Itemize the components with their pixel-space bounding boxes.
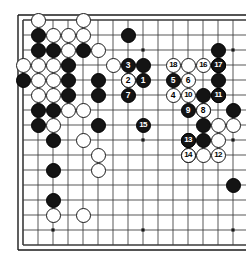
stone-black[interactable] <box>31 118 46 133</box>
move-number-label: 13 <box>184 136 191 144</box>
move-stone-3[interactable]: 3 <box>121 58 136 73</box>
stone-black[interactable] <box>196 118 211 133</box>
stone-black[interactable] <box>226 178 241 193</box>
stone-black[interactable] <box>91 118 106 133</box>
stone-white[interactable] <box>76 13 91 28</box>
move-number-label: 7 <box>126 91 130 100</box>
stone-black[interactable] <box>31 28 46 43</box>
stone-black[interactable] <box>121 28 136 43</box>
move-number-label: 2 <box>126 76 130 85</box>
star-point <box>51 228 54 231</box>
move-number-label: 11 <box>215 91 222 99</box>
stone-white[interactable] <box>46 88 61 103</box>
move-number-label: 5 <box>171 76 175 85</box>
move-number-label: 8 <box>201 106 205 115</box>
stone-white[interactable] <box>46 28 61 43</box>
move-stone-2[interactable]: 2 <box>121 73 136 88</box>
stone-white[interactable] <box>61 43 76 58</box>
stone-black[interactable] <box>211 43 226 58</box>
stone-white[interactable] <box>31 58 46 73</box>
move-number-label: 4 <box>171 91 175 100</box>
stone-black[interactable] <box>136 58 151 73</box>
stone-white[interactable] <box>196 148 211 163</box>
stone-white[interactable] <box>46 73 61 88</box>
stone-black[interactable] <box>196 133 211 148</box>
stone-black[interactable] <box>46 193 61 208</box>
move-stone-15[interactable]: 15 <box>136 118 151 133</box>
stone-white[interactable] <box>46 118 61 133</box>
stone-white[interactable] <box>76 28 91 43</box>
move-number-label: 17 <box>214 61 221 69</box>
move-stone-4[interactable]: 4 <box>166 88 181 103</box>
stone-black[interactable] <box>16 73 31 88</box>
move-number-label: 10 <box>184 91 191 99</box>
move-stone-16[interactable]: 16 <box>196 58 211 73</box>
move-stone-1[interactable]: 1 <box>136 73 151 88</box>
move-stone-11[interactable]: 11 <box>211 88 226 103</box>
stone-black[interactable] <box>46 43 61 58</box>
move-stone-13[interactable]: 13 <box>181 133 196 148</box>
star-point <box>231 228 234 231</box>
move-stone-5[interactable]: 5 <box>166 73 181 88</box>
move-number-label: 9 <box>186 106 190 115</box>
stone-white[interactable] <box>226 118 241 133</box>
stone-black[interactable] <box>61 73 76 88</box>
stone-white[interactable] <box>211 118 226 133</box>
stone-black[interactable] <box>31 103 46 118</box>
stone-white[interactable] <box>106 58 121 73</box>
go-board-diagram: 123456789101112131415161718 <box>0 0 246 265</box>
move-number-label: 18 <box>169 61 176 69</box>
move-stone-17[interactable]: 17 <box>211 58 226 73</box>
stone-black[interactable] <box>91 73 106 88</box>
stone-white[interactable] <box>31 73 46 88</box>
move-number-label: 1 <box>141 76 145 85</box>
stone-white[interactable] <box>91 43 106 58</box>
stone-white[interactable] <box>76 133 91 148</box>
stone-white[interactable] <box>16 58 31 73</box>
star-point <box>231 138 234 141</box>
move-number-label: 3 <box>126 61 130 70</box>
stone-white[interactable] <box>181 58 196 73</box>
stone-white[interactable] <box>76 208 91 223</box>
move-stone-18[interactable]: 18 <box>166 58 181 73</box>
move-number-label: 6 <box>186 76 190 85</box>
stone-white[interactable] <box>31 13 46 28</box>
stone-white[interactable] <box>46 208 61 223</box>
stone-black[interactable] <box>226 103 241 118</box>
stone-white[interactable] <box>91 163 106 178</box>
move-number-label: 14 <box>184 151 191 159</box>
move-number-label: 16 <box>199 61 206 69</box>
stone-black[interactable] <box>76 43 91 58</box>
move-number-label: 12 <box>214 151 221 159</box>
star-point <box>141 138 144 141</box>
stone-black[interactable] <box>46 163 61 178</box>
move-stone-14[interactable]: 14 <box>181 148 196 163</box>
stone-black[interactable] <box>31 43 46 58</box>
stone-white[interactable] <box>46 58 61 73</box>
stone-white[interactable] <box>211 133 226 148</box>
stone-white[interactable] <box>61 28 76 43</box>
stone-black[interactable] <box>46 103 61 118</box>
stone-white[interactable] <box>31 88 46 103</box>
move-number-label: 15 <box>139 121 146 129</box>
star-point <box>141 228 144 231</box>
move-stone-10[interactable]: 10 <box>181 88 196 103</box>
move-stone-7[interactable]: 7 <box>121 88 136 103</box>
move-stone-6[interactable]: 6 <box>181 73 196 88</box>
move-stone-12[interactable]: 12 <box>211 148 226 163</box>
stone-white[interactable] <box>91 148 106 163</box>
stone-black[interactable] <box>91 88 106 103</box>
stone-black[interactable] <box>196 88 211 103</box>
star-point <box>141 48 144 51</box>
stone-black[interactable] <box>46 133 61 148</box>
move-stone-9[interactable]: 9 <box>181 103 196 118</box>
stone-black[interactable] <box>61 88 76 103</box>
stone-white[interactable] <box>76 103 91 118</box>
star-point <box>231 48 234 51</box>
stone-white[interactable] <box>61 103 76 118</box>
stone-black[interactable] <box>211 73 226 88</box>
stone-black[interactable] <box>61 58 76 73</box>
move-stone-8[interactable]: 8 <box>196 103 211 118</box>
